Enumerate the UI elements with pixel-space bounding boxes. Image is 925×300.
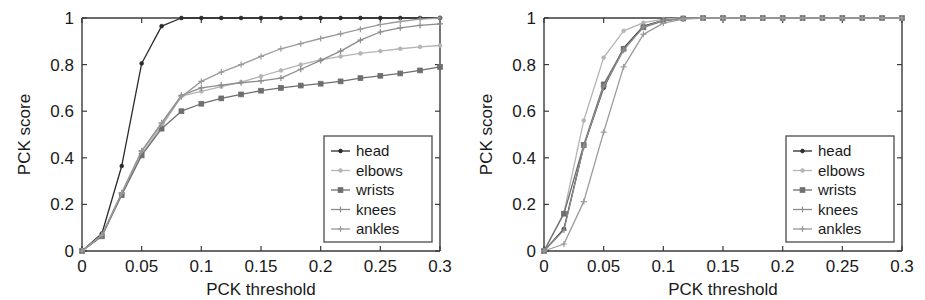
y-tick-label: 1: [65, 9, 74, 28]
x-tick-label: 0.3: [890, 257, 914, 276]
legend-label-head: head: [818, 142, 851, 159]
x-axis-title: PCK threshold: [668, 280, 778, 299]
ankles-marker: [397, 18, 403, 24]
pck-chart-left: 00.050.10.150.20.250.300.20.40.60.81PCK …: [0, 0, 462, 300]
y-tick-label: 0: [527, 242, 536, 261]
wrists-marker: [259, 88, 264, 93]
knees-marker: [338, 48, 344, 54]
elbows-marker: [398, 47, 402, 51]
wrists-marker: [179, 109, 184, 114]
pck-chart-right: 00.050.10.150.20.250.300.20.40.60.81PCK …: [462, 0, 924, 300]
legend-label-knees: knees: [818, 201, 858, 218]
knees-marker: [258, 78, 264, 84]
wrists-marker: [562, 211, 567, 216]
wrists-marker: [358, 76, 363, 81]
head-marker: [199, 16, 203, 20]
y-axis-title: PCK score: [477, 94, 496, 175]
elbows-marker: [259, 74, 263, 78]
head-marker: [239, 16, 243, 20]
legend-label-ankles: ankles: [356, 220, 399, 237]
legend-elbows-marker: [339, 169, 343, 173]
wrists-marker: [219, 96, 224, 101]
legend-label-knees: knees: [356, 201, 396, 218]
x-tick-label: 0: [539, 257, 548, 276]
y-tick-label: 0.8: [512, 56, 536, 75]
head-marker: [259, 16, 263, 20]
y-tick-label: 0.8: [50, 56, 74, 75]
legend: headelbowswristskneesankles: [324, 136, 432, 242]
x-tick-label: 0.15: [706, 257, 739, 276]
ankles-marker: [238, 62, 244, 68]
y-axis-title: PCK score: [15, 94, 34, 175]
head-marker: [378, 16, 382, 20]
knees-marker: [357, 37, 363, 43]
ankles-marker: [278, 46, 284, 52]
x-tick-label: 0.05: [587, 257, 620, 276]
ankles-marker: [561, 241, 567, 247]
knees-marker: [397, 25, 403, 31]
x-tick-label: 0.25: [364, 257, 397, 276]
legend-label-elbows: elbows: [818, 162, 865, 179]
ankles-marker: [621, 64, 627, 70]
plot-area-right: 00.050.10.150.20.250.300.20.40.60.81PCK …: [462, 0, 924, 300]
elbows-marker: [279, 69, 283, 73]
y-tick-label: 0.4: [512, 149, 536, 168]
ankles-marker: [318, 36, 324, 42]
knees-marker: [278, 75, 284, 81]
y-tick-label: 0.2: [50, 195, 74, 214]
head-marker: [359, 16, 363, 20]
wrists-marker: [418, 68, 423, 73]
wrists-marker: [398, 71, 403, 76]
legend-elbows-marker: [801, 169, 805, 173]
elbows-marker: [339, 55, 343, 59]
x-tick-label: 0.05: [125, 257, 158, 276]
ankles-marker: [377, 22, 383, 28]
x-tick-label: 0.2: [309, 257, 333, 276]
wrists-marker: [378, 73, 383, 78]
y-tick-label: 0.6: [50, 102, 74, 121]
knees-marker: [437, 21, 443, 27]
head-marker: [160, 24, 164, 28]
ankles-marker: [258, 53, 264, 59]
x-tick-label: 0.15: [244, 257, 277, 276]
elbows-marker: [299, 63, 303, 67]
legend-head-marker: [801, 149, 805, 153]
ankles-marker: [417, 16, 423, 22]
legend-label-wrists: wrists: [355, 181, 394, 198]
ankles-marker: [357, 26, 363, 32]
y-tick-label: 0.6: [512, 102, 536, 121]
ankles-marker: [581, 199, 587, 205]
x-tick-label: 0.1: [652, 257, 676, 276]
figure-root: 00.050.10.150.20.250.300.20.40.60.81PCK …: [0, 0, 925, 300]
knees-marker: [238, 80, 244, 86]
head-marker: [279, 16, 283, 20]
x-tick-label: 0: [77, 257, 86, 276]
elbows-marker: [378, 49, 382, 53]
ankles-marker: [298, 41, 304, 47]
x-axis-title: PCK threshold: [206, 280, 316, 299]
wrists-marker: [298, 83, 303, 88]
x-tick-label: 0.25: [826, 257, 859, 276]
x-tick-label: 0.1: [190, 257, 214, 276]
y-tick-label: 1: [527, 9, 536, 28]
wrists-marker: [438, 65, 443, 70]
elbows-marker: [418, 45, 422, 49]
ankles-marker: [338, 31, 344, 37]
head-marker: [180, 16, 184, 20]
legend-head-marker: [339, 149, 343, 153]
knees-marker: [298, 66, 304, 72]
wrists-marker: [239, 92, 244, 97]
wrists-marker: [199, 101, 204, 106]
knees-marker: [377, 29, 383, 35]
head-marker: [339, 16, 343, 20]
ankles-marker: [640, 31, 646, 37]
y-tick-label: 0: [65, 242, 74, 261]
head-marker: [299, 16, 303, 20]
ankles-marker: [437, 15, 443, 21]
y-tick-label: 0.2: [512, 195, 536, 214]
legend-label-wrists: wrists: [817, 181, 856, 198]
wrists-marker: [338, 79, 343, 84]
knees-marker: [318, 57, 324, 63]
head-marker: [319, 16, 323, 20]
wrists-marker: [318, 81, 323, 86]
